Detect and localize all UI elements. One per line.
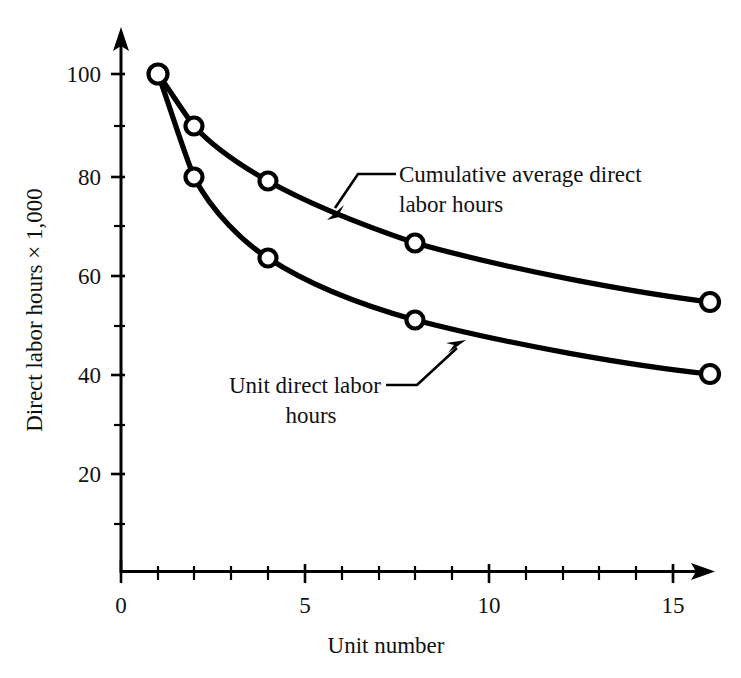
data-point-cum-unit-2 (186, 118, 203, 135)
chart-figure: 100 80 60 40 20 (0, 0, 741, 678)
y-tick-label-60: 60 (78, 264, 101, 289)
y-tick-label-40: 40 (78, 363, 101, 388)
cumulative-annotation: Cumulative average direct labor hours (327, 162, 642, 220)
curve-cumulative-average (158, 74, 710, 302)
unit-annotation-line-2: hours (285, 403, 336, 428)
data-point-cum-unit-8 (407, 235, 424, 252)
x-tick-label-10: 10 (478, 593, 501, 618)
x-tick-label-0: 0 (115, 593, 127, 618)
axes-group (113, 27, 715, 580)
cumulative-annotation-line-1: Cumulative average direct (399, 162, 642, 187)
y-tick-label-100: 100 (67, 62, 102, 87)
x-tick-label-5: 5 (299, 593, 311, 618)
cumulative-annotation-leader-line (335, 174, 396, 208)
y-tick-marks (111, 74, 125, 524)
data-point-unit-unit-4 (260, 250, 277, 267)
data-point-cum-unit-4 (260, 173, 277, 190)
unit-annotation-line-1: Unit direct labor (229, 373, 381, 398)
y-axis-title: Direct labor hours × 1,000 (22, 188, 47, 432)
data-point-unit-unit-16 (701, 365, 719, 383)
x-axis-title: Unit number (328, 633, 445, 658)
x-tick-label-15: 15 (662, 593, 685, 618)
data-point-unit-unit-2 (186, 169, 203, 186)
markers-cumulative-average (149, 65, 720, 312)
unit-annotation-arrow-icon (446, 340, 466, 353)
y-tick-label-20: 20 (78, 462, 101, 487)
cumulative-annotation-line-2: labor hours (399, 192, 503, 217)
curve-unit-direct-labor (158, 74, 710, 374)
data-point-cum-unit-1 (149, 65, 168, 84)
y-tick-labels: 100 80 60 40 20 (67, 62, 102, 487)
data-point-unit-unit-8 (407, 312, 424, 329)
x-tick-labels: 0 5 10 15 (115, 593, 684, 618)
y-tick-label-80: 80 (78, 165, 101, 190)
unit-annotation: Unit direct labor hours (229, 340, 466, 428)
unit-annotation-leader-line (386, 348, 457, 385)
data-point-cum-unit-16 (701, 293, 719, 311)
chart-canvas: 100 80 60 40 20 (0, 0, 741, 678)
